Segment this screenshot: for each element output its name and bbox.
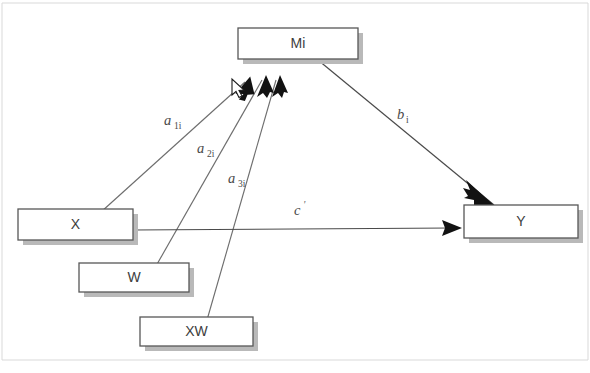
label-bi-subscript: i (406, 115, 409, 125)
label-a1i-subscript: 1i (174, 121, 182, 131)
node-w-label: W (127, 269, 141, 285)
arrowhead-c-prime (442, 220, 462, 236)
label-bi-base: b (397, 106, 404, 122)
node-mi-label: Mi (291, 35, 306, 51)
path-diagram: Mi X W XW Y a 1i (0, 0, 590, 373)
node-w[interactable]: W (79, 263, 194, 297)
label-c-prime-mark: ' (303, 198, 306, 210)
label-a3i-base: a (228, 170, 235, 186)
diagram-canvas: Mi X W XW Y a 1i (0, 0, 590, 373)
path-a2i (156, 80, 262, 266)
path-c-prime (133, 228, 452, 230)
mouse-pointer-icon (232, 79, 244, 98)
label-c-prime-base: c (294, 202, 301, 218)
node-xw[interactable]: XW (140, 317, 258, 351)
label-a2i-subscript: 2i (207, 149, 215, 159)
label-a2i-base: a (197, 140, 204, 156)
label-a3i: a 3i (228, 170, 246, 189)
node-y[interactable]: Y (464, 205, 583, 243)
label-c-prime: c ' (294, 198, 306, 218)
label-bi: b i (397, 106, 409, 125)
node-y-label: Y (516, 213, 526, 229)
node-mi[interactable]: Mi (238, 28, 363, 64)
arrowhead-bi (463, 180, 496, 207)
node-x[interactable]: X (18, 209, 138, 245)
node-x-label: X (71, 216, 81, 232)
label-a2i: a 2i (197, 140, 215, 159)
label-a3i-subscript: 3i (238, 179, 246, 189)
label-a1i: a 1i (164, 112, 182, 131)
node-xw-label: XW (185, 323, 208, 339)
label-a1i-base: a (164, 112, 171, 128)
